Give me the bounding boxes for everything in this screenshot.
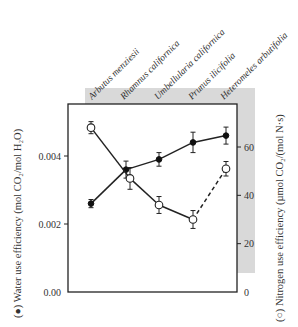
chart: 0.000.0020.004 0204060 Arbutus menziesii…	[0, 0, 298, 327]
left-axis-ticks: 0.000.0020.004	[39, 151, 69, 298]
left-tick-label: 0.00	[44, 287, 62, 298]
wue-point-marker	[223, 133, 229, 139]
nue-point-marker	[189, 216, 197, 224]
right-tick-label: 20	[244, 238, 254, 249]
right-tick-label: 0	[244, 287, 249, 298]
right-axis-label: (○) Nitrogen use efficiency (µmol CO₂/(m…	[274, 114, 286, 322]
nue-point-marker	[126, 175, 134, 183]
plot-frame	[68, 104, 237, 292]
wue-point-marker	[156, 157, 162, 163]
wue-point-marker	[190, 140, 196, 146]
nue-point-marker	[155, 201, 163, 209]
left-axis-label: (●) Water use efficiency (mol CO₂/mol H₂…	[12, 128, 24, 318]
right-tick-label: 40	[244, 190, 254, 201]
right-tick-label: 60	[244, 142, 254, 153]
nue-point-marker	[222, 165, 230, 173]
nue-point-marker	[87, 124, 95, 132]
left-tick-label: 0.002	[39, 219, 62, 230]
chart-canvas: 0.000.0020.004 0204060 Arbutus menziesii…	[0, 0, 298, 327]
left-tick-label: 0.004	[39, 151, 62, 162]
wue-point-marker	[88, 201, 94, 207]
